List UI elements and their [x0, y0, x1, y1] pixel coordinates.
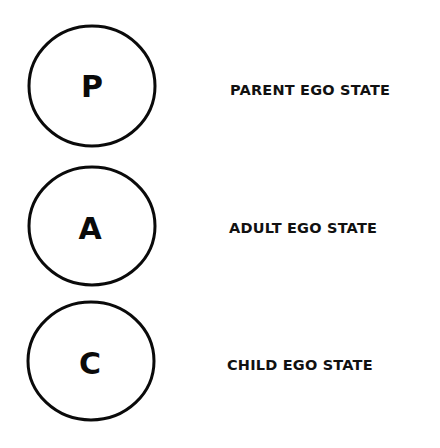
child-label: CHILD EGO STATE [227, 357, 373, 373]
adult-label: ADULT EGO STATE [229, 220, 377, 236]
child-circle: C [28, 302, 154, 420]
adult-circle: A [29, 167, 155, 285]
child-letter: C [79, 346, 101, 381]
parent-circle: P [29, 26, 155, 146]
parent-letter: P [81, 69, 103, 104]
parent-label: PARENT EGO STATE [230, 82, 390, 98]
adult-letter: A [78, 211, 102, 246]
